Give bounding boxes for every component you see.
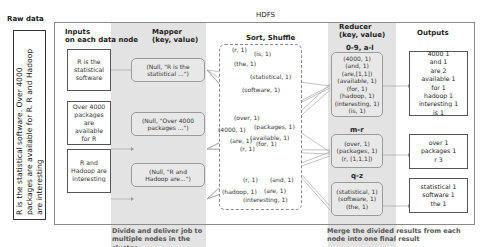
reducer-node-2: (over, 1) (packages, 1) (r, [1,1,1]): [331, 134, 383, 168]
output-line: for 1: [431, 84, 445, 92]
output-line: is 1: [433, 109, 444, 117]
mapper-title: Mapper: [152, 28, 198, 36]
shuffle-item: (r, 1): [240, 145, 255, 152]
shuffle-item: (packages, 1): [254, 123, 295, 130]
reducer-item: (software, 1): [338, 195, 376, 203]
raw-data-label: Raw data: [7, 15, 44, 23]
inputs-header: Inputs on each data node: [65, 28, 138, 45]
reducer-item: (statistical, 1): [336, 188, 377, 196]
output-node-3: statistical 1 software 1 the 1: [409, 178, 468, 213]
output-line: packages 1: [421, 147, 456, 155]
shuffle-item: (the, 1): [234, 60, 256, 67]
output-line: the 1: [430, 200, 446, 208]
output-line: statistical 1: [421, 183, 457, 191]
reducer-item: (are,[1,1]): [342, 70, 373, 78]
mapper-header: Mapper (key, value): [152, 28, 198, 45]
input-node-2: Over 4000 packages are available for R: [67, 101, 111, 145]
reducer-header: Reducer (key, value): [339, 23, 385, 40]
shuffle-item: (are, 1): [264, 187, 286, 194]
output-line: over 1: [429, 139, 449, 147]
output-line: are 2: [431, 67, 447, 75]
reducer-subtitle: (key, value): [339, 31, 385, 39]
output-line: 4000 1: [428, 50, 450, 58]
reduce-caption: Merge the divided results from each node…: [327, 227, 462, 244]
reducer-item: (4000, 1): [343, 55, 371, 63]
reducer-item: (over, 1): [344, 140, 370, 148]
output-line: hadoop 1: [424, 92, 453, 100]
reducer-item: (r, [1,1,1]): [342, 155, 373, 163]
output-line: software 1: [422, 191, 454, 199]
output-line: available 1: [422, 75, 456, 83]
output-line: interesting 1: [419, 100, 458, 108]
shuffle-item: (and, 1): [270, 176, 294, 183]
output-node-2: over 1 packages 1 r 3: [409, 134, 468, 169]
reducer-item: (packages, 1): [337, 147, 378, 155]
mapper-node-1: (Null, "R is the statistical ..."): [131, 58, 205, 82]
inputs-title: Inputs: [65, 28, 138, 36]
reducer-title: Reducer: [339, 23, 385, 31]
shuffle-item: (is, 1): [254, 50, 271, 57]
shuffle-item: (for, 1): [256, 140, 277, 147]
shuffle-item: (hadoop, 1): [222, 188, 257, 195]
reducer-item: (is, 1): [348, 107, 365, 115]
output-node-1: 4000 1 and 1 are 2 available 1 for 1 had…: [409, 51, 468, 116]
inputs-subtitle: on each data node: [65, 36, 138, 44]
shuffle-item: (interesting, 1): [243, 196, 288, 203]
input-node-1: R is the statistical software: [67, 49, 111, 91]
input-node-3: R and Hadoop are interesting: [67, 149, 111, 193]
hdfs-label: HDFS: [256, 11, 275, 19]
shuffle-item: (r, 1): [243, 176, 258, 183]
reducer-item: (for, 1): [347, 85, 368, 93]
shuffle-item: (r, 1): [232, 46, 247, 53]
reducer-node-3: (statistical, 1) (software, 1) (the, 1): [331, 182, 383, 216]
mapper-node-2: (Null, "Over 4000 packages ..."): [131, 112, 205, 136]
reducer-item: (and, 1): [345, 62, 369, 70]
shuffle-header: Sort, Shuffle: [246, 34, 295, 42]
raw-data-text: R is the statistical software. Over 4000…: [15, 35, 45, 215]
mapper-subtitle: (key, value): [152, 36, 198, 44]
map-caption: Divide and deliver job to multiple nodes…: [112, 227, 207, 247]
output-line: and 1: [430, 58, 448, 66]
reducer-item: (available, 1): [337, 77, 376, 85]
shuffle-item: (software, 1): [242, 86, 280, 93]
output-line: r 3: [434, 156, 442, 164]
mapper-node-3: (Null, "R and Hadoop are..."): [131, 163, 205, 187]
reducer-node-1: (4000, 1) (and, 1) (are,[1,1]) (availabl…: [331, 52, 383, 117]
shuffle-item: (over, 1): [234, 114, 260, 121]
raw-data-box: R is the statistical software. Over 4000…: [13, 30, 46, 220]
outputs-header: Outputs: [417, 29, 449, 37]
reducer-item: (hadoop, 1): [340, 92, 375, 100]
shuffle-item: (are, 1): [230, 137, 252, 144]
reducer-item: (interesting, 1): [335, 100, 380, 108]
reducer-item: (the, 1): [346, 203, 368, 211]
shuffle-item: (statistical, 1): [250, 73, 291, 80]
shuffle-item: (4000, 1): [218, 126, 246, 133]
reducer-range-3: q-z: [351, 172, 363, 180]
